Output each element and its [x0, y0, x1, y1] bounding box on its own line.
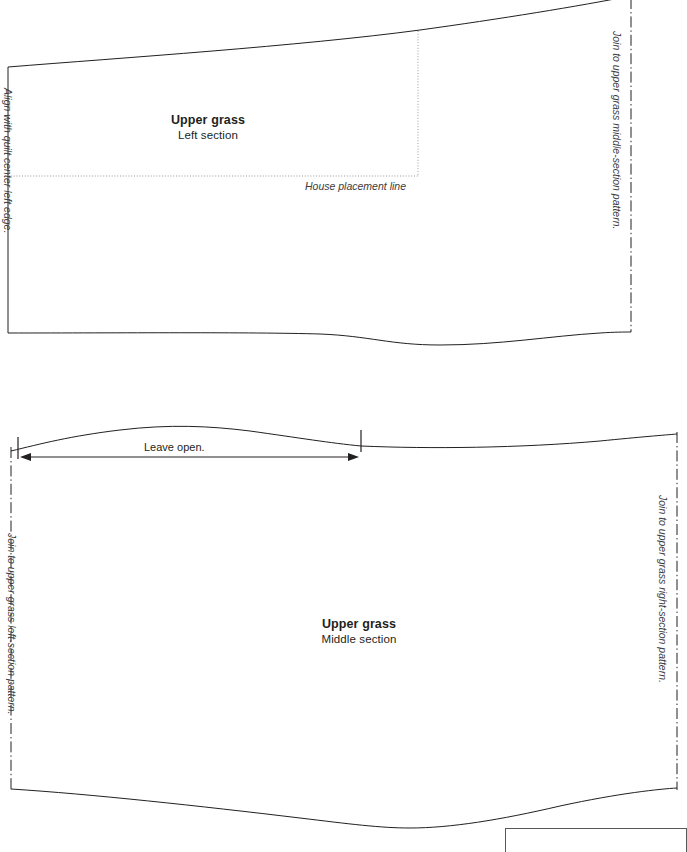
pattern-line-art	[0, 0, 687, 852]
piece1-bottom-cut-edge	[8, 332, 631, 345]
house-placement-line-label: House placement line	[305, 180, 406, 193]
piece1-right-edge-note: Join to upper grass middle-section patte…	[610, 31, 623, 271]
pattern-sheet: Upper grass Left section House placement…	[0, 0, 687, 852]
open-segment-label: Leave open.	[144, 441, 205, 454]
piece2-bottom-cut-edge	[11, 788, 677, 828]
corner-note-box: Patterns do not include	[505, 828, 687, 852]
piece2-title: Upper grass	[279, 617, 439, 632]
piece2-right-edge-note: Join to upper grass right-section patter…	[656, 495, 669, 725]
piece2-title-block: Upper grass Middle section	[279, 617, 439, 646]
piece1-left-edge-note: Align with quilt center left edge. Do no…	[0, 88, 14, 318]
piece2-top-cut-edge	[11, 426, 677, 451]
piece2-subtitle: Middle section	[279, 632, 439, 646]
piece1-title: Upper grass	[128, 113, 288, 128]
piece2-left-edge-note: Join to upper grass left-section pattern…	[5, 533, 18, 753]
piece1-title-block: Upper grass Left section	[128, 113, 288, 142]
open-segment-arrowhead-right	[348, 453, 359, 461]
piece1-top-cut-edge	[8, 0, 630, 67]
open-segment-arrowhead-left	[20, 453, 31, 461]
piece1-subtitle: Left section	[128, 128, 288, 142]
